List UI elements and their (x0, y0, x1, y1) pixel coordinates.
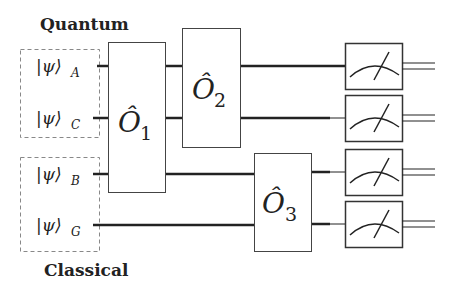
quantum-group-label: Quantum (40, 14, 129, 34)
measurement-g (346, 202, 436, 248)
input-label-g: |ψ⟩ G (36, 215, 81, 239)
quantum-circuit-diagram: Quantum Classical |ψ⟩ A |ψ⟩ C |ψ⟩ B |ψ⟩ … (0, 0, 452, 293)
classical-group-label: Classical (44, 260, 129, 280)
input-label-b: |ψ⟩ B (36, 164, 80, 188)
svg-text:Ô: Ô (118, 105, 141, 139)
svg-text:A: A (70, 66, 80, 80)
svg-text:2: 2 (214, 89, 226, 111)
measurement-c (346, 96, 436, 142)
input-label-a: |ψ⟩ A (36, 56, 80, 80)
svg-text:G: G (71, 225, 81, 239)
svg-text:|ψ⟩: |ψ⟩ (36, 56, 62, 76)
svg-text:Ô: Ô (262, 186, 285, 220)
operator-o2: Ô 2 (183, 29, 241, 148)
measurement-b (346, 150, 436, 196)
svg-text:Ô: Ô (192, 72, 215, 106)
svg-text:3: 3 (285, 203, 297, 225)
svg-text:C: C (71, 118, 80, 132)
operator-o3: Ô 3 (255, 154, 312, 252)
input-label-c: |ψ⟩ C (36, 108, 80, 132)
operator-o1: Ô 1 (109, 43, 166, 193)
svg-text:|ψ⟩: |ψ⟩ (36, 108, 62, 128)
measurement-a (346, 44, 436, 90)
svg-text:1: 1 (140, 122, 152, 144)
svg-text:B: B (70, 174, 80, 188)
svg-text:|ψ⟩: |ψ⟩ (36, 164, 62, 184)
svg-text:|ψ⟩: |ψ⟩ (36, 215, 62, 235)
